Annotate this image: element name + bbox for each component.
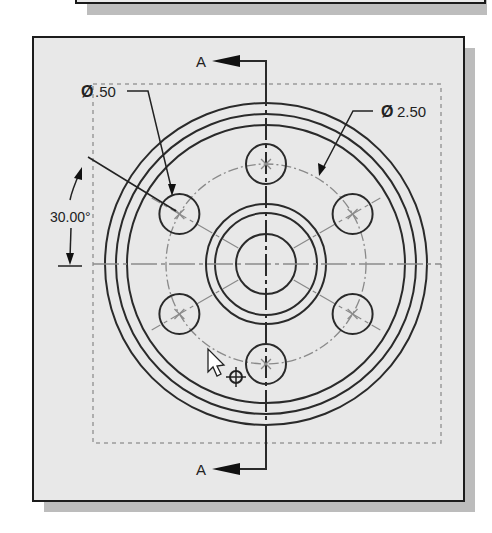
angle-arrow-lower-icon [66, 253, 74, 265]
section-arrow-bottom-icon [212, 463, 240, 475]
bolt-dim-diameter-symbol: Ø [381, 103, 393, 120]
section-label-bottom: A [196, 461, 206, 478]
section-line-top-leader [240, 61, 266, 84]
section-line-bottom-leader [240, 443, 266, 469]
radial-centerline-5 [152, 280, 239, 330]
drawing-canvas[interactable]: A A Ø .50 Ø 2.50 30.00° [0, 0, 492, 533]
bolt-circle-dimension[interactable]: Ø 2.50 [318, 103, 426, 176]
angle-extension-line [88, 157, 176, 211]
flange-geometry [93, 84, 441, 443]
section-label-top: A [196, 53, 206, 70]
hole-dim-leader [127, 91, 172, 191]
section-line-top[interactable]: A [196, 53, 266, 84]
hole-dim-value: .50 [95, 83, 116, 100]
radial-centerline-3 [294, 280, 381, 330]
section-arrow-top-icon [212, 55, 240, 67]
angle-value: 30.00° [50, 209, 91, 225]
angle-arrow-upper-icon [74, 167, 82, 180]
section-line-bottom[interactable]: A [196, 443, 266, 478]
radial-centerline-2 [294, 198, 381, 248]
hole-dim-diameter-symbol: Ø [81, 83, 93, 100]
bolt-dim-value: 2.50 [397, 103, 426, 120]
snap-target-icon [226, 367, 246, 387]
radial-centerline-6 [152, 198, 239, 248]
